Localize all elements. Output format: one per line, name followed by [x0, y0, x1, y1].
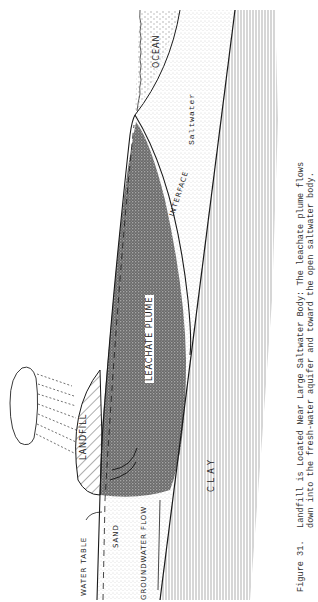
landfill-saltwater-diagram	[0, 0, 318, 602]
landfill-label: LANDFILL	[79, 414, 88, 460]
saltwater-label: Saltwater	[187, 93, 196, 145]
ocean-label: OCEAN	[152, 35, 161, 68]
rain-lines	[36, 374, 76, 454]
groundwater-flow-label: GROUNDWATER FLOW	[140, 506, 148, 600]
caption-line-1: Landfill is Located Near Large Saltwater…	[296, 162, 306, 528]
water-table-label: WATER TABLE	[80, 537, 88, 596]
figure-number: Figure 31.	[296, 540, 306, 592]
clay-label: CLAY	[207, 456, 216, 492]
leachate-plume-label: LEACHATE PLUME	[145, 295, 154, 383]
cloud-icon	[10, 367, 38, 445]
sand-label: SAND	[112, 524, 120, 548]
caption-line-2: down into the fresh-water aquifer and to…	[306, 172, 316, 528]
